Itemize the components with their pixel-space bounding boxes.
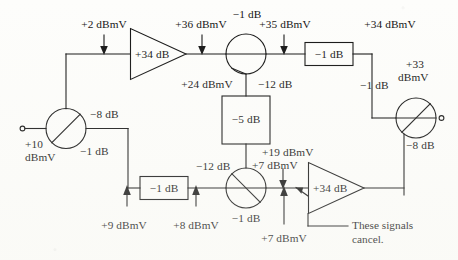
output-terminal-icon [439, 116, 444, 121]
cancel-arrow-head [296, 188, 303, 194]
level-amp-top-in: +2 dBmV [81, 18, 127, 31]
loss-combiner-bottom-through: −1 dB [232, 212, 261, 225]
level-input-line2: dBmV [25, 151, 56, 164]
level-combiner-bottom-tap-in: +19 dBmV [262, 146, 313, 159]
gain-amplifier-bottom: +34 dB [313, 182, 347, 195]
level-input-line1: +10 [25, 138, 43, 151]
level-attenuator-bottom-in: +9 dBmV [101, 219, 147, 232]
level-combiner-top-tap: +24 dBmV [181, 78, 232, 91]
loss-attenuator-bottom-left: −1 dB [150, 182, 179, 195]
loss-combiner-bottom-tap: −12 dB [196, 160, 230, 173]
loss-attenuator-middle: −5 dB [232, 113, 261, 126]
input-terminal-icon [20, 126, 25, 131]
level-after-attenuator-top-right: +34 dBmV [364, 18, 415, 31]
level-amp-bottom-in-upper: +7 dBmV [252, 159, 298, 172]
cancel-note-line2: cancel. [352, 233, 384, 247]
level-output-line2: dBmV [398, 71, 429, 84]
loss-combiner-top-through: −1 dB [233, 8, 262, 21]
level-amp-bottom-in-lower: +7 dBmV [261, 232, 307, 245]
figure-canvas: +2 dBmV +36 dBmV −1 dB +35 dBmV +34 dBmV… [0, 0, 458, 260]
loss-output-splitter-through: −1 dB [360, 79, 389, 92]
loss-splitter-input-through: −1 dB [80, 145, 109, 158]
loss-splitter-input-tap: −8 dB [90, 108, 119, 121]
arrow-atten-bottom-out-head [192, 185, 200, 195]
level-output-line1: +33 [406, 58, 424, 71]
loss-splitter-output-tap: −8 dB [406, 139, 435, 152]
level-attenuator-bottom-out: +8 dBmV [173, 219, 219, 232]
gain-amplifier-top: +34 dB [135, 48, 169, 61]
loss-attenuator-top-right: −1 dB [315, 48, 344, 61]
loss-combiner-top-tap: −12 dB [258, 78, 292, 91]
splitter-input-diagonal [52, 114, 80, 142]
level-amp-top-out: +36 dBmV [175, 18, 226, 31]
cancel-note-line1: These signals [352, 219, 413, 233]
arrow-atten-bottom-in-head [123, 185, 131, 195]
level-combiner-top-out: +35 dBmV [259, 18, 310, 31]
